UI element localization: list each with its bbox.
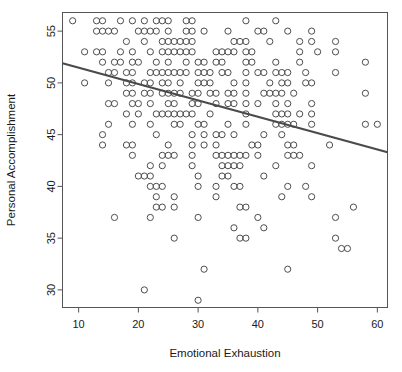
scatter-plot-figure: 303540455055 102030405060 Emotional Exha… <box>0 0 402 372</box>
x-tick-label: 60 <box>371 318 383 330</box>
y-tick-label: 45 <box>46 129 58 141</box>
x-tick-label: 10 <box>73 318 85 330</box>
x-tick-label: 30 <box>192 318 204 330</box>
x-tick-label: 50 <box>311 318 323 330</box>
y-tick-label: 50 <box>46 77 58 89</box>
y-tick-label: 40 <box>46 180 58 192</box>
x-tick-label: 20 <box>132 318 144 330</box>
y-tick-label: 55 <box>46 25 58 37</box>
y-tick-label: 35 <box>46 232 58 244</box>
plot-canvas: 303540455055 102030405060 Emotional Exha… <box>0 0 402 372</box>
y-axis-title: Personal Accomplishment <box>5 93 17 226</box>
y-tick-label: 30 <box>46 284 58 296</box>
x-tick-label: 40 <box>252 318 264 330</box>
x-axis-title: Emotional Exhaustion <box>169 347 280 359</box>
